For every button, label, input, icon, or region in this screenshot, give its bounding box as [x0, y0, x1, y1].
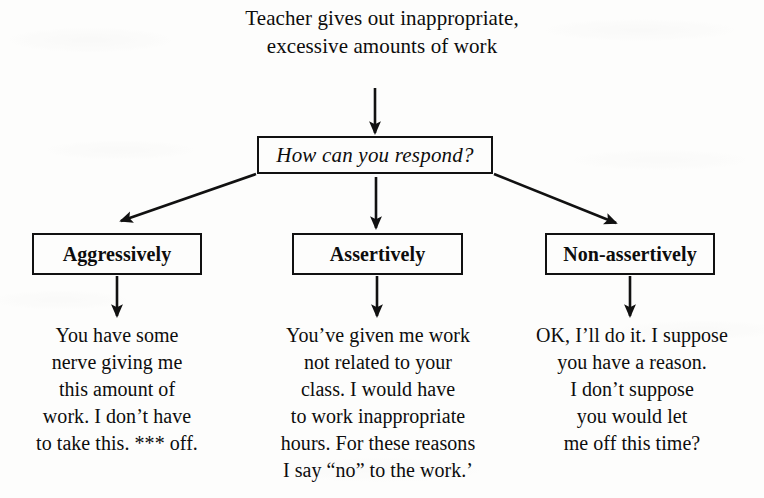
arrow-question-to-aggressive [121, 174, 256, 221]
response-nonassertive-line-3: I don’t suppose [508, 376, 756, 403]
response-assertive-line-5: hours. For these reasons [250, 430, 506, 457]
category-box-nonassertive: Non-assertively [545, 233, 715, 275]
response-nonassertive-line-2: you have a reason. [508, 349, 756, 376]
response-text-assertive: You’ve given me work not related to your… [250, 322, 506, 484]
question-box: How can you respond? [257, 136, 493, 174]
flowchart-page: Teacher gives out inappropriate, excessi… [0, 0, 764, 498]
question-label: How can you respond? [276, 144, 473, 166]
response-assertive-line-2: not related to your [250, 349, 506, 376]
response-assertive-line-6: I say “no” to the work.’ [250, 457, 506, 484]
response-text-aggressive: You have some nerve giving me this amoun… [10, 322, 224, 457]
stem-line-1: Teacher gives out [245, 6, 395, 30]
category-box-assertive: Assertively [292, 233, 463, 275]
category-box-aggressive: Aggressively [32, 233, 202, 275]
response-assertive-line-3: class. I would have [250, 376, 506, 403]
response-assertive-line-4: to work inappropriate [250, 403, 506, 430]
category-label-aggressive: Aggressively [63, 243, 172, 265]
response-text-nonassertive: OK, I’ll do it. I suppose you have a rea… [508, 322, 756, 457]
response-nonassertive-line-1: OK, I’ll do it. I suppose [508, 322, 756, 349]
response-aggressive-line-2: nerve giving me [10, 349, 224, 376]
stem-line-3: amounts of work [353, 34, 497, 58]
arrow-question-to-nonassertive [494, 174, 616, 223]
category-label-nonassertive: Non-assertively [563, 243, 697, 265]
response-assertive-line-1: You’ve given me work [250, 322, 506, 349]
response-nonassertive-line-5: me off this time? [508, 430, 756, 457]
response-nonassertive-line-4: you would let [508, 403, 756, 430]
category-label-assertive: Assertively [330, 243, 426, 265]
response-aggressive-line-1: You have some [10, 322, 224, 349]
response-aggressive-line-5: to take this. *** off. [10, 430, 224, 457]
response-aggressive-line-3: this amount of [10, 376, 224, 403]
response-aggressive-line-4: work. I don’t have [10, 403, 224, 430]
stem-statement: Teacher gives out inappropriate, excessi… [232, 4, 532, 60]
